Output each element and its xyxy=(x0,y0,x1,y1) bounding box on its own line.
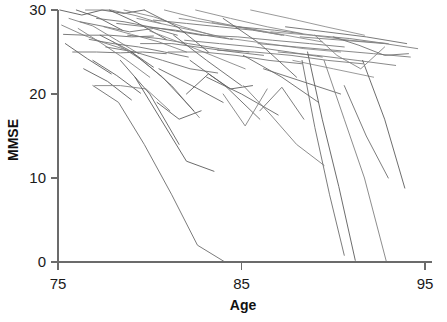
x-axis-tick-label: 85 xyxy=(233,275,250,292)
y-axis-title: MMSE xyxy=(5,119,21,161)
x-axis-tick-label: 75 xyxy=(50,275,67,292)
x-axis-tick-label: 95 xyxy=(417,275,434,292)
mmse-vs-age-spaghetti-plot: 0102030 758595 MMSE Age xyxy=(0,0,447,322)
y-axis-tick-label: 10 xyxy=(29,169,46,186)
y-axis-tick-label: 0 xyxy=(38,253,46,270)
chart-figure: 0102030 758595 MMSE Age xyxy=(0,0,447,322)
x-axis-title: Age xyxy=(230,297,257,313)
y-axis-tick-label: 20 xyxy=(29,85,46,102)
y-axis-tick-label: 30 xyxy=(29,1,46,18)
plot-background xyxy=(0,0,447,322)
